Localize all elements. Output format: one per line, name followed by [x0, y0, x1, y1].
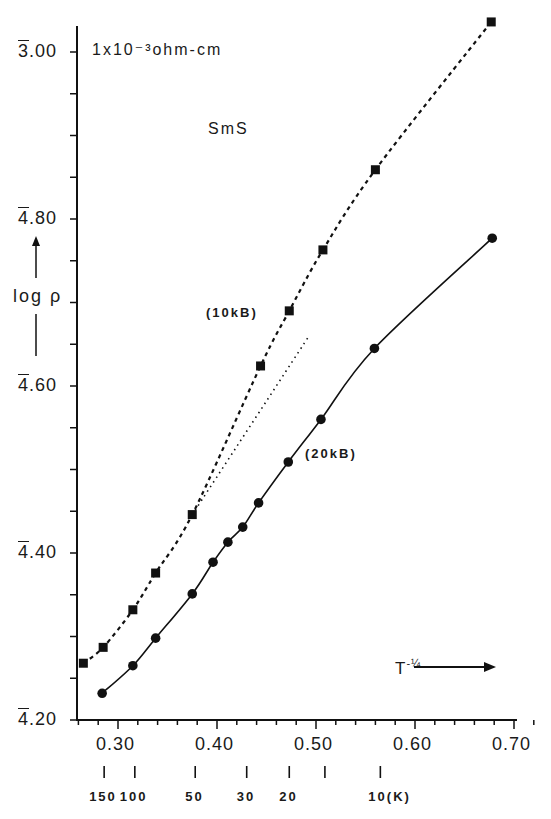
- x-tick-label: 0.60: [393, 734, 432, 755]
- series-line-10kB: [83, 22, 491, 663]
- square-marker-icon: [285, 306, 294, 315]
- circle-marker-icon: [223, 537, 233, 547]
- temperature-tick-label: 100: [120, 789, 148, 804]
- temperature-tick-label: 10(K): [368, 789, 411, 804]
- sample-label: SmS: [208, 120, 249, 138]
- circle-marker-icon: [487, 233, 497, 243]
- x-tick-label: 0.40: [195, 734, 234, 755]
- x-tick-label: 0.70: [492, 734, 531, 755]
- circle-marker-icon: [316, 415, 326, 425]
- right-arrow-icon: [484, 662, 496, 672]
- circle-marker-icon: [187, 589, 197, 599]
- square-marker-icon: [128, 605, 137, 614]
- circle-marker-icon: [254, 498, 264, 508]
- x-tick-label: 0.30: [96, 734, 135, 755]
- circle-marker-icon: [283, 457, 293, 467]
- square-marker-icon: [318, 245, 327, 254]
- y-tick-label: 4.40: [18, 542, 57, 563]
- y-tick-label: 4.20: [18, 709, 57, 730]
- circle-marker-icon: [370, 344, 380, 354]
- circle-marker-icon: [208, 557, 218, 567]
- square-marker-icon: [256, 361, 265, 370]
- temperature-tick-label: 30: [237, 789, 255, 804]
- square-marker-icon: [151, 569, 160, 578]
- plot-area: [0, 0, 551, 819]
- y-tick-label: 4.60: [18, 375, 57, 396]
- temperature-tick-label: 20: [279, 789, 297, 804]
- series-label-10kb: (10kB): [206, 305, 258, 320]
- circle-marker-icon: [97, 688, 107, 698]
- series-line-extrapolation: [192, 336, 309, 515]
- square-marker-icon: [79, 659, 88, 668]
- temperature-tick-label: 50: [185, 789, 203, 804]
- circle-marker-icon: [238, 522, 248, 532]
- x-tick-label: 0.50: [294, 734, 333, 755]
- circle-marker-icon: [128, 661, 138, 671]
- unit-annotation: 1x10⁻³ohm-cm: [92, 40, 222, 59]
- y-tick-label: 3.00: [18, 41, 57, 62]
- series-label-20kb: (20kB): [305, 446, 357, 461]
- series-line-20kB: [102, 238, 492, 693]
- y-axis-label: log ρ: [13, 286, 62, 307]
- square-marker-icon: [99, 643, 108, 652]
- temperature-tick-label: 150: [89, 789, 117, 804]
- x-axis-label: T-¼: [395, 657, 421, 679]
- y-tick-label: 4.80: [18, 208, 57, 229]
- up-arrow-icon: [32, 236, 40, 246]
- square-marker-icon: [371, 165, 380, 174]
- circle-marker-icon: [151, 633, 161, 643]
- square-marker-icon: [487, 17, 496, 26]
